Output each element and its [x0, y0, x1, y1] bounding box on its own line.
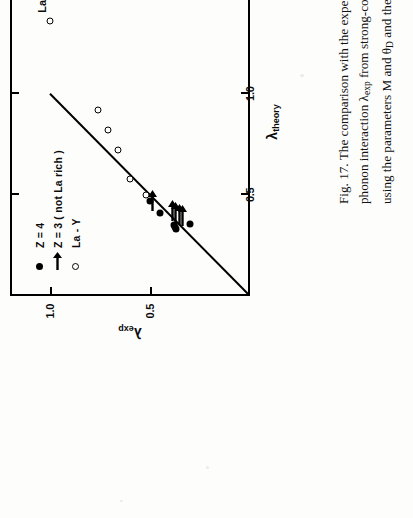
plot-area: 0.51.01.5 0.51.0 λtheory λexp La Z = 4Z …: [0, 0, 292, 348]
figure: 0.51.01.5 0.51.0 λtheory λexp La Z = 4Z …: [0, 0, 413, 518]
legend-symbol-open: [72, 248, 79, 270]
legend-item-label: Z = 3 ( not La rich ): [52, 150, 64, 248]
caption-line-3: using the parameters M and θD and the em…: [377, 0, 400, 204]
caption-line-1: Fig. 17. The comparison with the experim…: [334, 0, 354, 204]
legend-filled-circle-icon: [36, 263, 43, 270]
y-tick-label: 0.5: [144, 304, 156, 318]
caption-line-3-a: using the parameters M and: [379, 54, 394, 204]
caption-line-3-b: and the empirical formula (Eq. 22) given: [379, 0, 394, 41]
data-point-open: [95, 106, 102, 113]
scanned-page: 0.51.01.5 0.51.0 λtheory λexp La Z = 4Z …: [0, 0, 413, 518]
legend-item: Z = 4: [32, 150, 47, 270]
legend-right-arrow-icon: [52, 251, 63, 270]
caption-theta: θ: [379, 48, 394, 54]
data-point-open: [127, 175, 134, 182]
y-axis-symbol: λ: [134, 325, 142, 341]
data-point-filled: [187, 221, 194, 228]
data-point-filled: [157, 210, 164, 217]
y-axis-subscript: exp: [118, 324, 134, 334]
legend-item: La - Y: [68, 150, 83, 270]
caption-line-4: in the text.: [400, 0, 413, 204]
legend-open-circle-icon: [72, 263, 79, 270]
caption-block: Fig. 17. The comparison with the experim…: [334, 0, 413, 204]
data-point-open: [143, 191, 150, 198]
legend: Z = 4Z = 3 ( not La rich )La - Y: [32, 150, 86, 270]
legend-item-label: Z = 4: [34, 223, 46, 248]
legend-item-label: La - Y: [70, 218, 82, 248]
x-axis-subscript: theory: [271, 104, 281, 132]
data-point-open: [105, 127, 112, 134]
legend-symbol-arrow: [52, 248, 63, 270]
caption-line-2: phonon interaction λexp from strong-coup…: [354, 0, 377, 204]
data-point-arrow: [177, 204, 188, 226]
caption-line-2-a: phonon interaction: [356, 101, 371, 204]
x-axis-symbol: λ: [264, 132, 280, 140]
legend-item: Z = 3 ( not La rich ): [50, 150, 65, 270]
caption-theta-sub: D: [385, 41, 395, 48]
x-axis-title: λtheory: [264, 104, 281, 139]
caption-line-2-b: from strong-coupling theory, with the pr…: [356, 0, 371, 81]
point-annotation-la: La: [36, 0, 48, 13]
caption-lambda-sub: exp: [362, 81, 372, 95]
caption-text: Fig. 17. The comparison with the experim…: [334, 0, 413, 204]
y-tick-label: 1.0: [44, 304, 56, 318]
data-point-open: [47, 17, 54, 24]
data-point-filled: [173, 226, 180, 233]
legend-symbol-filled: [36, 248, 43, 270]
caption-lambda: λ: [356, 95, 371, 101]
data-point-open: [115, 147, 122, 154]
y-axis-title: λexp: [118, 324, 141, 341]
